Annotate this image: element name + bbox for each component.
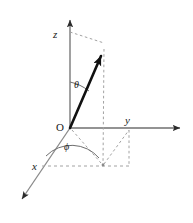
- diagram-canvas: z y x O θ ϕ: [0, 0, 193, 223]
- azimuthal-angle-label: ϕ: [64, 141, 69, 152]
- z-axis-label: z: [52, 28, 58, 40]
- spherical-coordinate-diagram: z y x O θ ϕ: [0, 0, 193, 223]
- x-axis-label: x: [31, 160, 37, 172]
- ground-projection-point: [102, 164, 105, 167]
- y-axis-label: y: [124, 114, 130, 126]
- polar-angle-label: θ: [74, 79, 79, 90]
- origin-label: O: [56, 121, 64, 133]
